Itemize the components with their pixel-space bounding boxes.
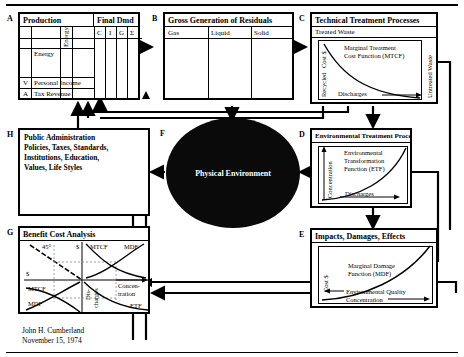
box-label-f: F bbox=[160, 129, 165, 139]
box-b: Gross Generation of Residuals Gas Liquid… bbox=[163, 12, 294, 100]
box-a-hline-2 bbox=[20, 48, 94, 49]
box-a-hline-1 bbox=[20, 38, 94, 39]
box-c-curve-layer bbox=[312, 14, 440, 106]
box-a-row-energy: Energy bbox=[34, 50, 54, 58]
box-g-q3-dollar: $ bbox=[26, 270, 29, 278]
box-b-header: Gross Generation of Residuals bbox=[165, 14, 292, 27]
box-label-b: B bbox=[152, 14, 157, 24]
box-h-line4: Values, Life Styles bbox=[24, 164, 82, 172]
box-b-col-solid: Solid bbox=[254, 29, 269, 37]
box-g-axis-dis-2: charges bbox=[92, 286, 100, 308]
author-name: John H. Cumberland bbox=[22, 326, 84, 336]
diagram-canvas: A Production Final Dmd C I G Σ Energy En… bbox=[0, 0, 464, 357]
box-d-curve-label-2: Transformation bbox=[344, 157, 384, 165]
physical-environment-label: Physical Environment bbox=[166, 169, 300, 178]
box-d-yaxis-label: Concentration bbox=[326, 152, 334, 198]
box-e-axis-arrows bbox=[312, 230, 440, 310]
box-a-row-v-code: V bbox=[23, 79, 28, 87]
route-c-return-2 bbox=[88, 106, 348, 112]
diagram-date: November 15, 1974 bbox=[22, 336, 82, 346]
box-b-vline-2 bbox=[251, 27, 252, 100]
box-b-col-liquid: Liquid bbox=[211, 29, 230, 37]
box-label-a: A bbox=[7, 14, 13, 24]
box-b-col-gas: Gas bbox=[168, 29, 179, 37]
box-h-line1: Public Administration bbox=[24, 134, 95, 142]
box-g-axis-dis-1: Dis- bbox=[84, 286, 92, 300]
box-a-col-g: G bbox=[119, 29, 124, 37]
box-label-d: D bbox=[299, 130, 305, 140]
box-label-e: E bbox=[299, 230, 304, 240]
box-g-q1-dollar: $ bbox=[76, 243, 79, 251]
physical-environment-circle: Physical Environment bbox=[166, 118, 300, 228]
box-a-hline-3 bbox=[20, 77, 94, 78]
box-a-vertical-energy-label: Energy bbox=[62, 29, 70, 47]
box-g: Benefit Cost Analysis 45° $ MTC bbox=[18, 226, 150, 314]
box-g-q1-mdf: MDF bbox=[124, 243, 138, 251]
box-b-vline-1 bbox=[208, 27, 209, 100]
box-h: Public Administration Policies, Taxes, S… bbox=[18, 128, 150, 216]
box-d-xaxis-arrowhead bbox=[394, 195, 400, 200]
box-b-subhline bbox=[165, 38, 292, 39]
box-g-45-label: 45° bbox=[42, 243, 51, 251]
box-a-row-a-text: Tax Revenue bbox=[34, 90, 71, 98]
box-c-curve-label-1: Marginal Treatment bbox=[344, 44, 396, 52]
box-d-curve-label-1: Environmental bbox=[344, 149, 383, 157]
box-label-c: C bbox=[299, 14, 305, 24]
box-a-col-sigma: Σ bbox=[130, 29, 134, 37]
box-g-q1-mtcf: MTCF bbox=[90, 243, 108, 251]
box-c: Technical Treatment Processes Treated Wa… bbox=[310, 12, 438, 104]
box-a-hline-4 bbox=[20, 88, 94, 89]
box-c-yaxis-recycled: Recycled bbox=[320, 69, 328, 97]
box-a: Production Final Dmd C I G Σ Energy Ener… bbox=[18, 12, 140, 100]
box-h-line2: Policies, Taxes, Standards, bbox=[24, 144, 108, 152]
box-a-row-a-code: A bbox=[23, 90, 28, 98]
box-c-xaxis-label: Discharges bbox=[338, 90, 367, 98]
box-d-curve-label-3: Function (ETF) bbox=[344, 165, 385, 173]
box-a-hline-5 bbox=[94, 38, 142, 39]
box-g-q4-conc-1: Concen- bbox=[118, 282, 140, 290]
box-c-yaxis-cost: Cost $ bbox=[320, 44, 328, 68]
box-h-line3: Institutions, Education, bbox=[24, 154, 99, 162]
box-a-row-v-text: Personal Income bbox=[34, 79, 81, 87]
box-g-q3-mtcf: MTCF bbox=[28, 285, 46, 293]
box-label-g: G bbox=[7, 228, 13, 238]
box-g-45-line bbox=[30, 245, 82, 280]
box-e: Impacts, Damages, Effects Cost $ Margina… bbox=[310, 228, 438, 308]
box-c-right-axis: Untreated Waste bbox=[426, 42, 434, 98]
box-d-xaxis-label: Discharges bbox=[345, 190, 374, 198]
box-a-col-c: C bbox=[97, 29, 102, 37]
box-d: Environmental Treatment Processes Concen… bbox=[310, 128, 412, 208]
box-g-q4-etf: ETF bbox=[130, 302, 142, 310]
box-c-xaxis-arrowhead bbox=[416, 93, 422, 98]
arrowhead-g-a-2 bbox=[142, 91, 150, 99]
box-a-header-final-dmd: Final Dmd bbox=[94, 14, 138, 27]
box-g-q4-conc-2: tration bbox=[118, 290, 135, 298]
box-label-h: H bbox=[7, 130, 13, 140]
box-a-col-i: I bbox=[109, 29, 111, 37]
box-a-header-production: Production bbox=[20, 14, 94, 27]
box-g-q3-mdf: MDF bbox=[28, 300, 42, 308]
box-c-curve-label-2: Cost Function (MTCF) bbox=[344, 52, 404, 60]
